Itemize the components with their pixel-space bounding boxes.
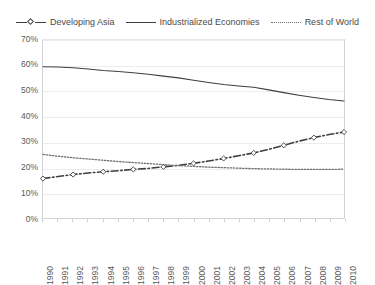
data-point-marker — [251, 150, 256, 155]
x-axis-tick-label: 1993 — [91, 266, 100, 285]
x-axis-tick-mark — [87, 219, 88, 222]
x-axis-tick-label: 1997 — [152, 266, 161, 285]
x-axis-tick-mark — [118, 219, 119, 222]
x-axis-tick-mark — [269, 219, 270, 222]
series-line-industrialized-economies — [43, 67, 344, 101]
y-axis-tick-label: 50% — [6, 86, 38, 95]
x-axis-tick-label: 2005 — [273, 266, 282, 285]
data-point-marker — [101, 169, 106, 174]
x-axis-tick-mark — [284, 219, 285, 222]
plot-area — [42, 39, 345, 219]
x-axis-tick-label: 1994 — [107, 266, 116, 285]
x-axis-tick-mark — [315, 219, 316, 222]
legend-item-developing-asia: Developing Asia — [16, 18, 115, 27]
x-axis-tick-mark — [133, 219, 134, 222]
x-axis-tick-label: 2003 — [243, 266, 252, 285]
x-axis-tick-mark — [194, 219, 195, 222]
x-axis-tick-label: 1992 — [76, 266, 85, 285]
data-point-marker — [40, 176, 45, 181]
data-point-marker — [281, 143, 286, 148]
legend-item-rest-of-world: Rest of World — [271, 18, 359, 27]
x-axis-tick-label: 1999 — [182, 266, 191, 285]
x-axis-tick-label: 2009 — [334, 266, 343, 285]
x-axis-tick-mark — [209, 219, 210, 222]
legend-item-industrialized-economies: Industrialized Economies — [126, 18, 260, 27]
y-axis-tick-label: 40% — [6, 112, 38, 121]
data-point-marker — [341, 129, 346, 134]
x-axis-tick-label: 2010 — [349, 266, 358, 285]
x-axis-tick-label: 2002 — [228, 266, 237, 285]
x-axis-tick-mark — [72, 219, 73, 222]
x-axis-labels: 1990199119921993199419951996199719981999… — [42, 222, 345, 268]
x-axis-tick-mark — [148, 219, 149, 222]
legend-label-developing-asia: Developing Asia — [50, 18, 115, 27]
x-axis-tick-mark — [163, 219, 164, 222]
y-axis-tick-label: 20% — [6, 163, 38, 172]
x-axis-tick-label: 1990 — [46, 266, 55, 285]
legend-swatch-dashed-marker-icon — [16, 18, 46, 27]
y-axis-tick-label: 10% — [6, 189, 38, 198]
x-axis-tick-label: 1998 — [167, 266, 176, 285]
x-axis-tick-label: 2006 — [288, 266, 297, 285]
data-point-marker — [191, 161, 196, 166]
y-axis-tick-label: 60% — [6, 60, 38, 69]
x-axis-tick-mark — [254, 219, 255, 222]
data-point-marker — [221, 156, 226, 161]
x-axis-tick-mark — [345, 219, 346, 222]
x-axis-tick-label: 2008 — [319, 266, 328, 285]
x-axis-tick-mark — [103, 219, 104, 222]
x-axis-tick-mark — [239, 219, 240, 222]
x-axis-tick-mark — [224, 219, 225, 222]
x-axis-tick-label: 2004 — [258, 266, 267, 285]
x-axis-tick-label: 1991 — [61, 266, 70, 285]
x-axis-tick-label: 1996 — [137, 266, 146, 285]
y-axis-tick-label: 70% — [6, 35, 38, 44]
legend-swatch-dotted-icon — [271, 18, 301, 27]
data-point-marker — [71, 172, 76, 177]
y-axis-tick-label: 30% — [6, 137, 38, 146]
series-lines — [43, 40, 344, 218]
x-axis-tick-label: 2000 — [198, 266, 207, 285]
chart-legend: Developing Asia Industrialized Economies… — [0, 14, 375, 30]
x-axis-tick-label: 1995 — [122, 266, 131, 285]
x-axis-tick-mark — [42, 219, 43, 222]
y-axis-tick-label: 0% — [6, 215, 38, 224]
legend-label-rest-of-world: Rest of World — [305, 18, 359, 27]
legend-swatch-solid-icon — [126, 18, 156, 27]
data-point-marker — [311, 135, 316, 140]
data-point-marker — [131, 167, 136, 172]
x-axis-tick-mark — [178, 219, 179, 222]
x-axis-tick-label: 2001 — [213, 266, 222, 285]
legend-label-industrialized-economies: Industrialized Economies — [160, 18, 260, 27]
x-axis-tick-mark — [57, 219, 58, 222]
x-axis-tick-mark — [300, 219, 301, 222]
series-line-developing-asia — [43, 132, 344, 179]
x-axis-tick-label: 2007 — [304, 266, 313, 285]
x-axis-tick-mark — [330, 219, 331, 222]
